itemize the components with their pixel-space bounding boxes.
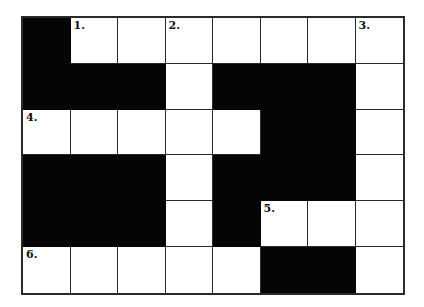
block-cell: [23, 155, 71, 201]
letter-cell[interactable]: 4.: [23, 110, 71, 156]
letter-cell[interactable]: [261, 18, 309, 64]
block-cell: [308, 64, 356, 110]
block-cell: [308, 110, 356, 156]
letter-cell[interactable]: [118, 110, 166, 156]
letter-cell[interactable]: [308, 201, 356, 247]
letter-cell[interactable]: [71, 110, 119, 156]
letter-cell[interactable]: [166, 155, 214, 201]
letter-cell[interactable]: [118, 247, 166, 293]
block-cell: [71, 155, 119, 201]
letter-cell[interactable]: [356, 64, 404, 110]
block-cell: [213, 64, 261, 110]
letter-cell[interactable]: [118, 18, 166, 64]
clue-number: 2.: [169, 20, 180, 31]
clue-number: 6.: [26, 249, 37, 260]
block-cell: [308, 155, 356, 201]
letter-cell[interactable]: [213, 247, 261, 293]
letter-cell[interactable]: [213, 18, 261, 64]
block-cell: [118, 201, 166, 247]
block-cell: [261, 64, 309, 110]
block-cell: [261, 247, 309, 293]
letter-cell[interactable]: [356, 110, 404, 156]
letter-cell[interactable]: [166, 64, 214, 110]
letter-cell[interactable]: 3.: [356, 18, 404, 64]
letter-cell[interactable]: [71, 247, 119, 293]
block-cell: [118, 64, 166, 110]
letter-cell[interactable]: 1.: [71, 18, 119, 64]
block-cell: [71, 201, 119, 247]
block-cell: [308, 247, 356, 293]
letter-cell[interactable]: [356, 201, 404, 247]
block-cell: [261, 155, 309, 201]
clue-number: 4.: [26, 112, 37, 123]
letter-cell[interactable]: [213, 110, 261, 156]
letter-cell[interactable]: 6.: [23, 247, 71, 293]
letter-cell[interactable]: [166, 201, 214, 247]
clue-number: 5.: [264, 203, 275, 214]
block-cell: [71, 64, 119, 110]
block-cell: [261, 110, 309, 156]
clue-number: 3.: [359, 20, 370, 31]
letter-cell[interactable]: [356, 155, 404, 201]
clue-number: 1.: [74, 20, 85, 31]
letter-cell[interactable]: 5.: [261, 201, 309, 247]
letter-cell[interactable]: [166, 110, 214, 156]
letter-cell[interactable]: 2.: [166, 18, 214, 64]
block-cell: [213, 201, 261, 247]
block-cell: [23, 64, 71, 110]
block-cell: [23, 201, 71, 247]
block-cell: [23, 18, 71, 64]
letter-cell[interactable]: [166, 247, 214, 293]
block-cell: [213, 155, 261, 201]
letter-cell[interactable]: [308, 18, 356, 64]
block-cell: [118, 155, 166, 201]
letter-cell[interactable]: [356, 247, 404, 293]
crossword-grid: 1.2.3.4.5.6.: [21, 16, 405, 295]
